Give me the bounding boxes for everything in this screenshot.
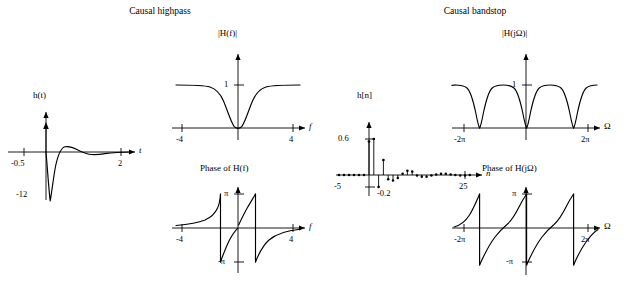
xtick-phase-ct-4: 4	[289, 234, 293, 244]
xtick-mag-ct-neg4: -4	[176, 134, 183, 144]
axis-label-f-mag: f	[309, 121, 312, 131]
phase-ct-svg	[160, 165, 330, 283]
xtick-mag-dt-2pi: 2π	[581, 134, 590, 144]
plot-magnitude-ct: |H(f)| f -4 4 1	[160, 30, 330, 145]
axis-label-ht: h(t)	[33, 90, 46, 100]
ytick-mag-dt-1: 1	[512, 79, 516, 89]
group-title-highpass: Causal highpass	[105, 6, 215, 16]
plot-magnitude-dt: |H(jΩ)| Ω -2π 2π 1	[440, 30, 630, 145]
axis-label-phase-dt: Phase of H(jΩ)	[482, 163, 537, 173]
xtick-phase-ct-neg4: -4	[176, 234, 183, 244]
xtick-mag-ct-4: 4	[289, 134, 293, 144]
axis-label-magnitude-dt: |H(jΩ)|	[502, 28, 527, 38]
xtick-mag-dt-neg2pi: -2π	[454, 134, 465, 144]
axis-label-t: t	[139, 145, 142, 155]
axis-label-f-phase: f	[309, 221, 312, 231]
xtick-ct-neg05: -0.5	[11, 158, 24, 168]
group-title-bandstop: Causal bandstop	[415, 6, 535, 16]
ytick-phase-ct-negpi: -π	[218, 256, 225, 266]
phase-dt-svg	[440, 165, 630, 283]
ytick-phase-dt-negpi: -π	[506, 256, 513, 266]
magnitude-dt-svg	[440, 30, 630, 145]
ytick-ct-neg12: -12	[16, 189, 27, 199]
axis-label-magnitude-ct: |H(f)|	[218, 28, 237, 38]
plot-phase-ct: Phase of H(f) f -4 4 π -π	[160, 165, 330, 283]
plot-phase-dt: Phase of H(jΩ) Ω -2π 2π π -π	[440, 165, 630, 283]
xtick-phase-dt-2pi: 2π	[581, 234, 590, 244]
axis-label-omega-phase: Ω	[604, 221, 611, 231]
ytick-mag-ct-1: 1	[224, 79, 228, 89]
magnitude-ct-svg	[160, 30, 330, 145]
ytick-dt-06: 0.6	[338, 133, 349, 143]
xtick-dt-neg5: -5	[334, 181, 341, 191]
axis-label-omega-mag: Ω	[604, 121, 611, 131]
ytick-phase-dt-pi: π	[512, 188, 516, 198]
ytick-phase-ct-pi: π	[224, 188, 228, 198]
axis-label-hn: h[n]	[357, 90, 372, 100]
xtick-ct-2: 2	[118, 158, 122, 168]
ytick-dt-neg02: -0.2	[377, 188, 390, 198]
plot-impulse-response-ct: h(t) t -0.5 2 -12	[0, 100, 160, 210]
xtick-phase-dt-neg2pi: -2π	[454, 234, 465, 244]
figure-root: Causal highpass Causal bandstop h(t) t -…	[0, 0, 631, 286]
axis-label-phase-ct: Phase of H(f)	[200, 163, 249, 173]
